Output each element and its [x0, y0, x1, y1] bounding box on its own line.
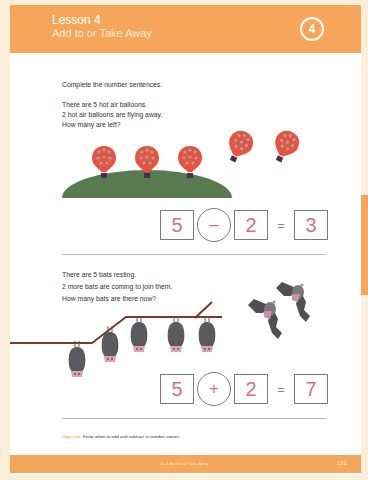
eq2-equals: = — [268, 382, 294, 397]
equation-2: 5 + 2 = 7 — [160, 372, 328, 406]
objective-text: Know when to add and subtract in number … — [83, 434, 181, 439]
eq2-result[interactable]: 7 — [294, 374, 328, 404]
page-footer: 11.4 Add to or Take Away 131 — [10, 455, 361, 473]
footer-section: 11.4 Add to or Take Away — [160, 461, 209, 466]
eq2-operator[interactable]: + — [197, 372, 231, 406]
divider-2 — [62, 418, 326, 419]
objective: Objective: Know when to add and subtract… — [62, 434, 180, 439]
objective-label: Objective: — [62, 434, 82, 439]
eq2-operand-b[interactable]: 2 — [234, 374, 268, 404]
page-number: 131 — [337, 460, 347, 466]
bats-illustration — [0, 0, 368, 480]
eq2-operand-a[interactable]: 5 — [160, 374, 194, 404]
